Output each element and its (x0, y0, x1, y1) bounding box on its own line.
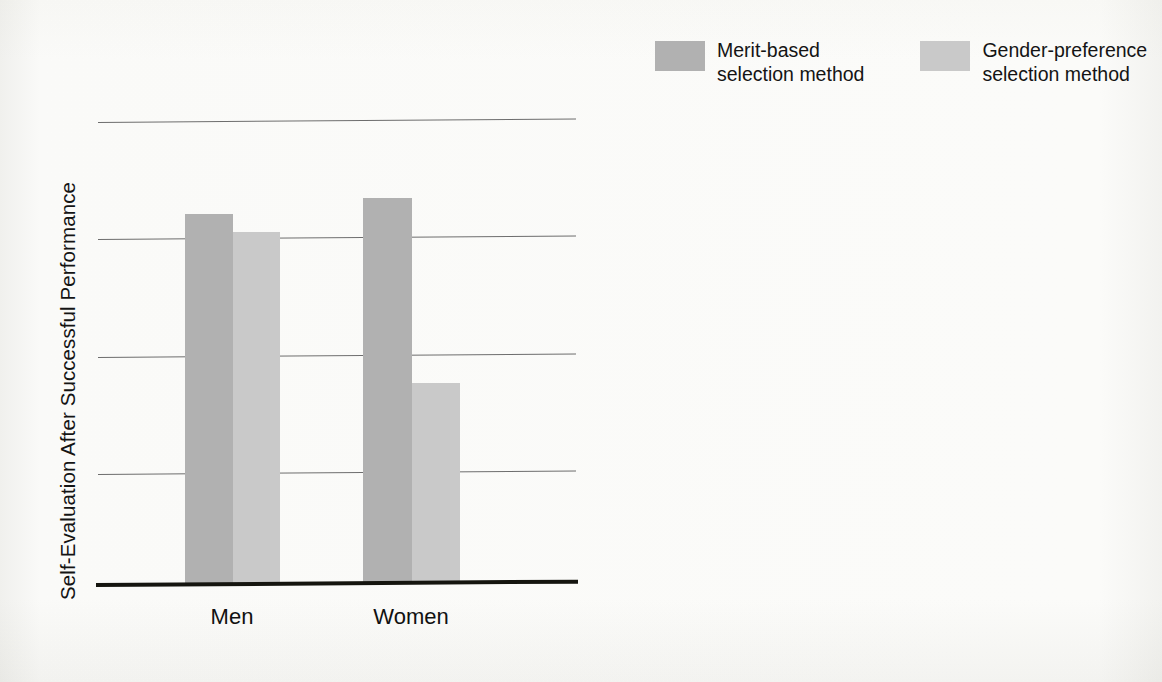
y-axis-label-left: Self-Evaluation After Successful Perform… (56, 182, 80, 600)
x-axis-baseline-left (96, 580, 578, 587)
bar-men-gender-preference (233, 232, 280, 583)
plot-area-left: Men Women (98, 112, 576, 583)
chart-figure: Merit-based selection method Gender-pref… (0, 0, 1162, 682)
bar-men-merit (185, 214, 233, 583)
x-tick-label-men: Men (211, 604, 254, 630)
chart-panel-right: Percentage Who Selected a Challenging Ta… (600, 0, 1162, 682)
gridline (98, 118, 576, 123)
bar-women-merit (363, 198, 412, 583)
bar-women-gender-preference (412, 383, 460, 583)
gridline (98, 235, 576, 240)
gridline (98, 470, 576, 475)
gridline (98, 353, 576, 358)
x-tick-label-women: Women (373, 604, 448, 630)
chart-panel-left: Self-Evaluation After Successful Perform… (0, 0, 600, 682)
